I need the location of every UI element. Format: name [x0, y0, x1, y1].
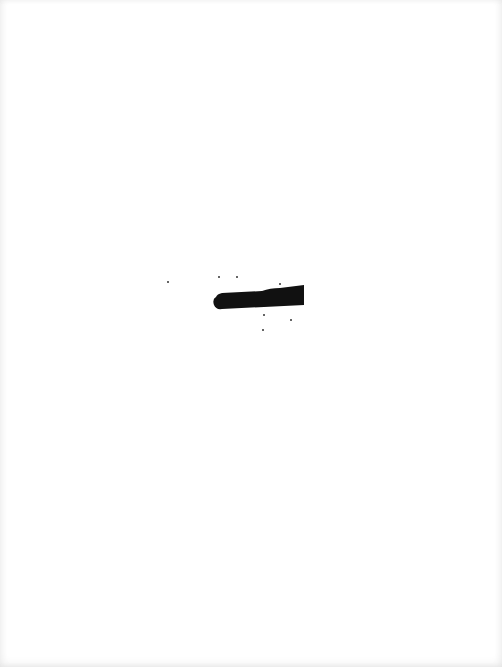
dust-speck	[290, 319, 292, 321]
dust-speck	[167, 281, 169, 283]
dust-speck	[218, 276, 220, 278]
dust-speck	[263, 314, 265, 316]
marker-stroke	[210, 283, 306, 313]
dust-speck	[262, 329, 264, 331]
document-page	[0, 0, 502, 667]
dust-speck	[279, 283, 281, 285]
dust-speck	[236, 276, 238, 278]
